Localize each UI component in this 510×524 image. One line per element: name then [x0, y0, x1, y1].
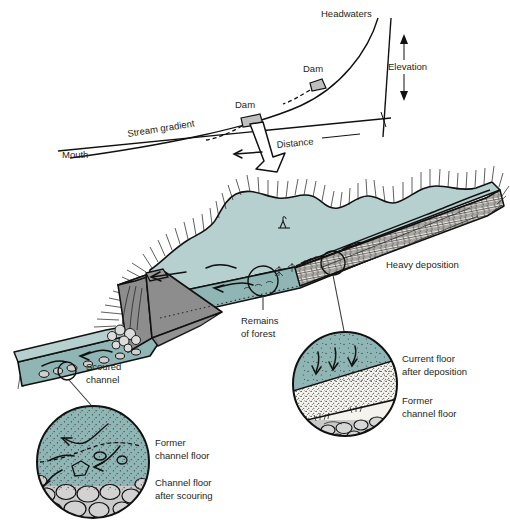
elevation-label: Elevation	[388, 61, 427, 72]
longitudinal-profile: Dam Dam Headwaters Elevation Distance St…	[58, 8, 427, 172]
distance-label: Distance	[276, 135, 314, 149]
dam-upper-label: Dam	[303, 63, 323, 74]
figure-canvas: Dam Dam Headwaters Elevation Distance St…	[0, 0, 510, 524]
distance-direction-arrow	[234, 150, 262, 158]
remains-of-forest-label-line2: of forest	[241, 328, 276, 339]
after-scouring-label-line1: Channel floor	[155, 477, 212, 488]
current-floor-label-line1: Current floor	[402, 353, 455, 364]
deposition-inset-leader	[333, 275, 344, 331]
scoured-channel-label-line2: channel	[86, 374, 119, 385]
dam-lower-label: Dam	[235, 99, 255, 110]
scour-former-floor-label-line1: Former	[155, 437, 186, 448]
after-scouring-label-line2: after scouring	[155, 490, 213, 501]
remains-of-forest-label-line1: Remains	[241, 315, 279, 326]
heavy-deposition-label: Heavy deposition	[386, 259, 459, 270]
stream-gradient-label: Stream gradient	[127, 117, 196, 138]
reservoir-water-surface	[148, 182, 500, 298]
diagram-svg: Dam Dam Headwaters Elevation Distance St…	[0, 0, 510, 524]
inset-former-floor-label-line2: channel floor	[402, 408, 456, 419]
inset-former-floor-label-line1: Former	[402, 395, 433, 406]
dam-upper-symbol	[283, 79, 326, 104]
scoured-channel-label-line1: Scoured	[86, 361, 121, 372]
current-floor-label-line2: after deposition	[402, 366, 467, 377]
scour-former-floor-label-line2: channel floor	[155, 450, 209, 461]
inset-scour: Former channel floor Channel floor after…	[33, 404, 213, 522]
headwaters-label: Headwaters	[321, 8, 372, 19]
inset-deposition: Current floor after deposition Former ch…	[288, 330, 467, 446]
mouth-label: Mouth	[62, 149, 88, 160]
